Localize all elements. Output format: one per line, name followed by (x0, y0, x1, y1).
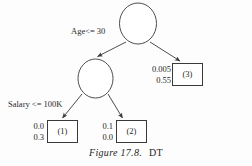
decision-node-root (120, 3, 157, 44)
leaf-node-1: (1) (47, 120, 78, 143)
leaf3-label: (3) (183, 70, 193, 79)
decision-tree-figure: Age<= 30 Salary <= 100K 0.005 0.55 (3) 0… (0, 0, 252, 166)
caption-number: Figure 17.8. (89, 147, 142, 158)
leaf1-value-0: 0.0 (30, 121, 44, 132)
leaf-node-2: (2) (116, 120, 147, 143)
leaf2-value-1: 0.0 (99, 132, 113, 143)
caption-title: DT (149, 147, 163, 158)
leaf1-label: (1) (58, 127, 68, 136)
leaf1-values: 0.0 0.3 (30, 121, 44, 143)
edge-root-to-leaf3 (150, 42, 180, 61)
leaf3-value-0: 0.005 (148, 64, 171, 75)
edge-label-age: Age<= 30 (71, 27, 105, 36)
leaf2-values: 0.1 0.0 (99, 121, 113, 143)
leaf2-value-0: 0.1 (99, 121, 113, 132)
decision-node-inner (78, 59, 113, 98)
leaf3-values: 0.005 0.55 (148, 64, 171, 86)
leaf-node-3: (3) (172, 63, 203, 86)
edge-root-to-inner (98, 42, 127, 57)
edge-inner-to-leaf2 (108, 94, 123, 118)
figure-caption: Figure 17.8.DT (0, 147, 252, 158)
leaf1-value-1: 0.3 (30, 132, 44, 143)
edge-inner-to-leaf1 (63, 94, 83, 118)
leaf2-label: (2) (127, 127, 137, 136)
leaf3-value-1: 0.55 (148, 75, 171, 86)
edge-label-salary: Salary <= 100K (8, 100, 62, 109)
